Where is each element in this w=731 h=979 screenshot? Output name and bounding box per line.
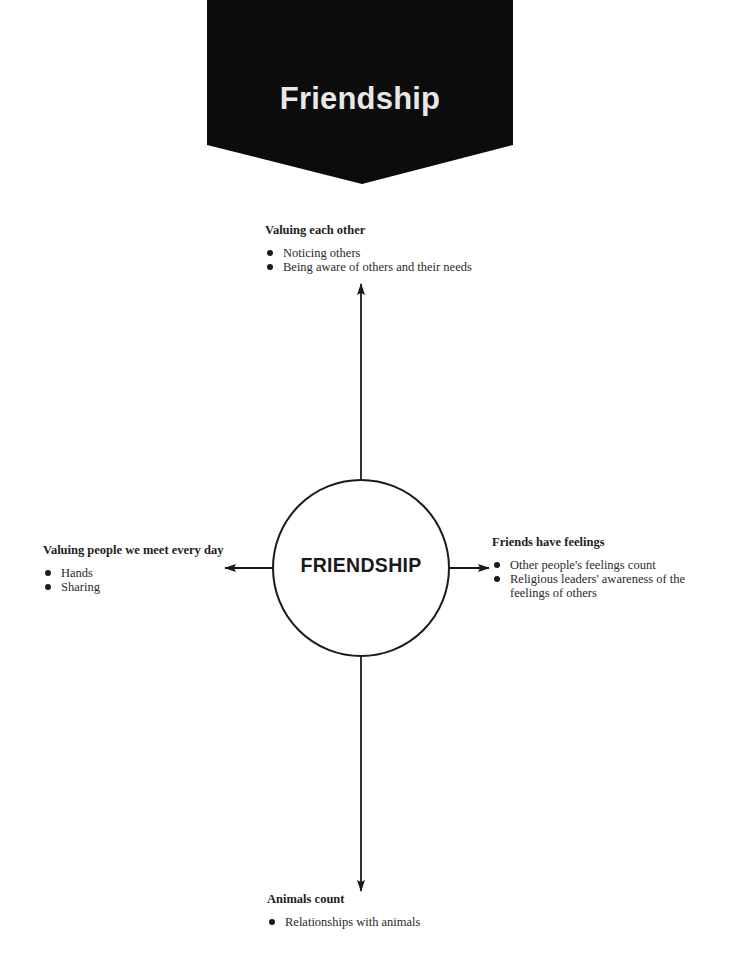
list-item: Sharing [43, 580, 263, 594]
node-bullet-list: Noticing others Being aware of others an… [265, 246, 485, 274]
list-item: Hands [43, 566, 263, 580]
node-bullet-list: Hands Sharing [43, 566, 263, 594]
node-bullet-list: Relationships with animals [267, 915, 487, 929]
list-item: Religious leaders' awareness of the feel… [492, 572, 727, 600]
node-friends-have-feelings: Friends have feelings Other people's fee… [492, 535, 727, 600]
node-animals-count: Animals count Relationships with animals [267, 892, 487, 929]
node-heading: Friends have feelings [492, 535, 727, 550]
list-item: Being aware of others and their needs [265, 260, 485, 274]
list-item: Other people's feelings count [492, 558, 727, 572]
mind-map-connectors [0, 0, 731, 979]
node-heading: Valuing people we meet every day [43, 543, 263, 558]
node-heading: Valuing each other [265, 223, 485, 238]
center-node-label: FRIENDSHIP [273, 554, 449, 577]
node-valuing-people-every-day: Valuing people we meet every day Hands S… [43, 543, 263, 594]
node-bullet-list: Other people's feelings count Religious … [492, 558, 727, 600]
list-item: Relationships with animals [267, 915, 487, 929]
node-heading: Animals count [267, 892, 487, 907]
list-item: Noticing others [265, 246, 485, 260]
node-valuing-each-other: Valuing each other Noticing others Being… [265, 223, 485, 274]
